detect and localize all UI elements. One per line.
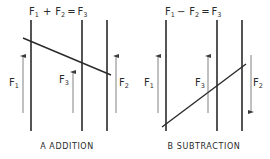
label-f1-addition: F1 bbox=[9, 77, 19, 90]
resultant-line-addition bbox=[23, 38, 111, 75]
resultant-line-subtraction bbox=[162, 64, 246, 127]
panel-subtraction: F1−F2=F3 F1 F3 F2 B SUBTRACTION bbox=[144, 6, 263, 151]
equation-addition: F1+F2=F3 bbox=[29, 6, 88, 19]
equation-subtraction: F1−F2=F3 bbox=[165, 6, 222, 19]
label-f2-subtraction: F2 bbox=[253, 77, 263, 90]
panel-addition: F1+F2=F3 F1 F3 F2 A ADDITION bbox=[9, 6, 129, 151]
label-f3-subtraction: F3 bbox=[195, 77, 205, 90]
label-f1-subtraction: F1 bbox=[144, 77, 154, 90]
label-f2-addition: F2 bbox=[119, 77, 129, 90]
force-vector-diagram: F1+F2=F3 F1 F3 F2 A ADDITION F1−F2=F3 F1 bbox=[0, 0, 270, 159]
caption-addition: A ADDITION bbox=[40, 142, 94, 151]
caption-subtraction: B SUBTRACTION bbox=[168, 142, 241, 151]
label-f3-addition: F3 bbox=[59, 74, 69, 87]
